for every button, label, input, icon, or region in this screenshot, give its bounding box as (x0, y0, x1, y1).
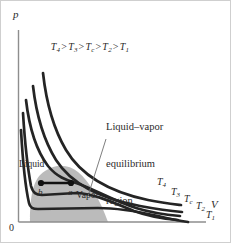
inequality-term-t1: T1 (120, 41, 129, 52)
inequality-term-t3: T3 (68, 41, 77, 52)
isotherm-label-t3: T3 (171, 186, 180, 200)
callout-leader-line (88, 139, 106, 196)
point-b-marker (38, 180, 44, 186)
isotherm-label-tc: Tc (184, 193, 193, 207)
point-a-label: a (68, 187, 73, 197)
y-axis-label: p (13, 8, 19, 20)
equilibrium-region-callout: Liquid–vapor equilibrium region (106, 96, 163, 232)
point-b-label: b (38, 187, 43, 197)
origin-label: 0 (9, 222, 14, 233)
vapor-region-label: Vapor (76, 190, 99, 201)
inequality-term-tc: Tc (85, 41, 94, 52)
temperature-inequality: T4>T3>Tc>T2>T1 (40, 30, 129, 66)
inequality-term-t2: T2 (102, 41, 111, 52)
callout-line-3: region (106, 195, 163, 207)
inequality-term-t4: T4 (51, 41, 60, 52)
point-a-marker (68, 180, 74, 186)
isotherm-label-t2: T2 (196, 200, 205, 214)
isotherm-label-t4: T4 (157, 176, 166, 190)
liquid-region-label: Liquid (19, 159, 44, 170)
callout-line-1: Liquid–vapor (106, 121, 163, 133)
pv-diagram-figure: p V 0 T4>T3>Tc>T2>T1 Liquid–vapor equili… (0, 0, 231, 243)
callout-line-2: equilibrium (106, 158, 163, 170)
isotherm-label-t1: T1 (206, 209, 215, 223)
